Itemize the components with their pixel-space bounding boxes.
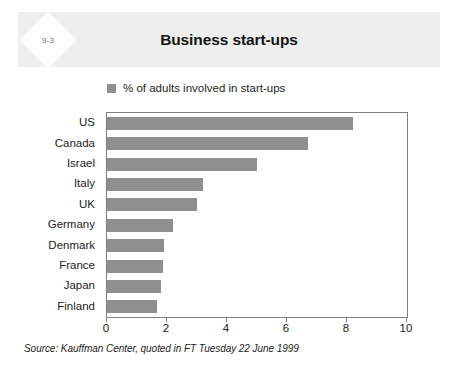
bar-row xyxy=(107,297,407,317)
bar-row xyxy=(107,215,407,235)
x-axis-tick-label: 2 xyxy=(163,322,169,334)
bar-row xyxy=(107,256,407,276)
page-title: Business start-ups xyxy=(18,12,440,67)
bar-row xyxy=(107,235,407,255)
x-axis-tick-label: 10 xyxy=(400,322,413,334)
x-axis-tick-label: 4 xyxy=(223,322,229,334)
chart-legend: % of adults involved in start-ups xyxy=(107,82,285,94)
y-axis-tick-label: UK xyxy=(18,194,102,214)
y-axis-tick-labels: US Canada Israel Italy UK Germany Denmar… xyxy=(18,112,102,316)
bar-row xyxy=(107,276,407,296)
y-axis-tick-label: Japan xyxy=(18,275,102,295)
bar xyxy=(107,280,161,293)
bar xyxy=(107,178,203,191)
bar-row xyxy=(107,195,407,215)
bar-row xyxy=(107,154,407,174)
legend-swatch-icon xyxy=(107,84,116,93)
bar xyxy=(107,137,308,150)
y-axis-tick-label: Denmark xyxy=(18,234,102,254)
bar xyxy=(107,260,163,273)
chart-bars xyxy=(107,113,407,317)
bar xyxy=(107,219,173,232)
y-axis-tick-label: Germany xyxy=(18,214,102,234)
x-axis-tick-label: 0 xyxy=(103,322,109,334)
chart-plot-wrapper: US Canada Israel Italy UK Germany Denmar… xyxy=(18,112,440,327)
y-axis-tick-label: US xyxy=(18,112,102,132)
bar xyxy=(107,239,164,252)
x-axis-tick-label: 6 xyxy=(283,322,289,334)
chart-plot-area xyxy=(106,112,408,318)
x-axis-tick-label: 8 xyxy=(343,322,349,334)
y-axis-tick-label: Italy xyxy=(18,173,102,193)
bar xyxy=(107,117,353,130)
bar-row xyxy=(107,174,407,194)
y-axis-tick-label: Israel xyxy=(18,153,102,173)
bar-row xyxy=(107,133,407,153)
y-axis-tick-label: Canada xyxy=(18,132,102,152)
bar xyxy=(107,158,257,171)
y-axis-tick-label: France xyxy=(18,255,102,275)
bar xyxy=(107,198,197,211)
legend-item-label: % of adults involved in start-ups xyxy=(123,82,285,94)
figure-header-band: 9-3 Business start-ups xyxy=(18,12,440,67)
source-note: Source: Kauffman Center, quoted in FT Tu… xyxy=(24,343,299,354)
bar-row xyxy=(107,113,407,133)
x-axis-tick-labels: 0246810 xyxy=(106,322,408,340)
y-axis-tick-label: Finland xyxy=(18,296,102,316)
figure-card: 9-3 Business start-ups % of adults invol… xyxy=(18,12,440,367)
bar xyxy=(107,300,157,313)
